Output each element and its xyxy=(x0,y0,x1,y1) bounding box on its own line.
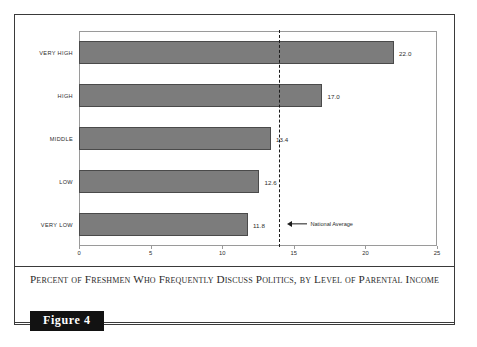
bar xyxy=(79,41,394,64)
x-axis: 0510152025 xyxy=(79,246,437,264)
x-axis-tick xyxy=(437,246,438,249)
category-label: LOW xyxy=(59,179,73,185)
x-axis-tick-label: 0 xyxy=(77,250,80,256)
bar-row: VERY HIGH22.0 xyxy=(79,41,437,64)
bar-value-label: 22.0 xyxy=(399,49,411,56)
category-label: MIDDLE xyxy=(50,136,73,142)
national-average-label: National Average xyxy=(310,221,353,227)
category-label: VERY LOW xyxy=(41,222,73,228)
bar xyxy=(79,213,248,236)
bar-row: MIDDLE13.4 xyxy=(79,127,437,150)
bar-value-label: 13.4 xyxy=(276,135,288,142)
x-axis-tick-label: 15 xyxy=(291,250,297,256)
bar xyxy=(79,170,259,193)
bar-row: VERY LOW11.8 xyxy=(79,213,437,236)
bar-value-label: 17.0 xyxy=(327,92,339,99)
x-axis-tick-label: 25 xyxy=(434,250,440,256)
caption-divider xyxy=(14,266,455,267)
national-average-line xyxy=(279,30,280,247)
x-axis-tick-label: 10 xyxy=(219,250,225,256)
bar-value-label: 12.6 xyxy=(264,178,276,185)
bar-value-label: 11.8 xyxy=(253,221,265,228)
category-label: VERY HIGH xyxy=(39,50,73,56)
figure-number-badge: Figure 4 xyxy=(30,311,104,331)
x-axis-tick xyxy=(365,246,366,249)
x-axis-tick xyxy=(151,246,152,249)
bar xyxy=(79,127,271,150)
chart-plot-region: VERY HIGH22.0HIGH17.0MIDDLE13.4LOW12.6VE… xyxy=(79,31,437,246)
x-axis-tick xyxy=(79,246,80,249)
x-axis-tick-label: 5 xyxy=(149,250,152,256)
category-label: HIGH xyxy=(58,93,73,99)
bar-row: HIGH17.0 xyxy=(79,84,437,107)
bar xyxy=(79,84,322,107)
x-axis-tick xyxy=(294,246,295,249)
x-axis-tick-label: 20 xyxy=(362,250,368,256)
figure-caption: Percent of Freshmen Who Frequently Discu… xyxy=(30,272,445,287)
left-arrow-icon xyxy=(287,221,307,227)
figure-container: VERY HIGH22.0HIGH17.0MIDDLE13.4LOW12.6VE… xyxy=(0,0,477,347)
bar-row: LOW12.6 xyxy=(79,170,437,193)
national-average-annotation: National Average xyxy=(287,221,353,227)
x-axis-tick xyxy=(222,246,223,249)
